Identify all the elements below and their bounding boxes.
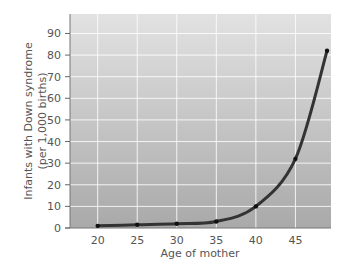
data-point [135, 223, 139, 227]
y-axis-label: Infants with Down syndrome (per 1,000 bi… [22, 42, 49, 200]
x-tick-label: 45 [288, 234, 302, 247]
x-tick-label: 30 [170, 234, 184, 247]
y-tick-label: 80 [47, 49, 61, 62]
x-tick-label: 35 [209, 234, 223, 247]
x-tick-label: 20 [91, 234, 105, 247]
svg-text:Infants with Down syndrome: Infants with Down syndrome [22, 42, 35, 200]
y-tick-label: 30 [47, 157, 61, 170]
plot-area [70, 14, 331, 228]
y-tick-label: 70 [47, 71, 61, 84]
y-tick-label: 50 [47, 114, 61, 127]
data-point [325, 49, 329, 53]
y-tick-label: 10 [47, 200, 61, 213]
x-tick-label: 40 [249, 234, 263, 247]
x-tick-label: 25 [130, 234, 144, 247]
y-tick-label: 90 [47, 27, 61, 40]
x-axis-ticks: 202530354045 [91, 234, 303, 247]
x-axis-label: Age of mother [161, 247, 240, 260]
y-tick-label: 0 [54, 222, 61, 235]
data-point [214, 219, 218, 223]
svg-text:(per 1,000 births): (per 1,000 births) [36, 73, 49, 170]
data-point [95, 224, 99, 228]
y-tick-label: 60 [47, 92, 61, 105]
line-chart: 0102030405060708090 202530354045 Age of … [0, 0, 349, 276]
data-point [175, 221, 179, 225]
data-point [254, 204, 258, 208]
y-tick-label: 40 [47, 136, 61, 149]
y-tick-label: 20 [47, 179, 61, 192]
data-point [293, 157, 297, 161]
y-axis-ticks: 0102030405060708090 [47, 27, 70, 235]
